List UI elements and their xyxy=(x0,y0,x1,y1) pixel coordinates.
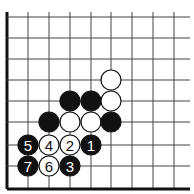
black-stone-icon xyxy=(101,112,121,132)
white-stone xyxy=(60,112,80,132)
black-stone-icon xyxy=(39,112,59,132)
black-stone-icon xyxy=(60,91,80,111)
white-stone xyxy=(101,91,121,111)
move-number: 3 xyxy=(66,158,74,175)
move-number: 6 xyxy=(45,158,53,175)
move-number: 5 xyxy=(24,137,32,154)
black-stone-move-7: 7 xyxy=(18,156,38,176)
black-stone xyxy=(60,91,80,111)
black-stone-move-3: 3 xyxy=(60,156,80,176)
black-stone xyxy=(101,112,121,132)
white-stone xyxy=(81,112,101,132)
white-stone xyxy=(101,70,121,90)
white-stone-move-6: 6 xyxy=(39,156,59,176)
go-board: 5421763 xyxy=(0,0,194,194)
white-stone-icon xyxy=(60,112,80,132)
white-stone-icon xyxy=(81,112,101,132)
white-stone-icon xyxy=(101,70,121,90)
move-number: 4 xyxy=(45,137,53,154)
move-number: 1 xyxy=(87,137,95,154)
white-stone-icon xyxy=(101,91,121,111)
black-stone-move-5: 5 xyxy=(18,135,38,155)
white-stone-move-2: 2 xyxy=(60,135,80,155)
white-stone-move-4: 4 xyxy=(39,135,59,155)
black-stone-icon xyxy=(81,91,101,111)
black-stone xyxy=(39,112,59,132)
black-stone-move-1: 1 xyxy=(81,135,101,155)
move-number: 7 xyxy=(24,158,32,175)
black-stone xyxy=(81,91,101,111)
move-number: 2 xyxy=(66,137,74,154)
